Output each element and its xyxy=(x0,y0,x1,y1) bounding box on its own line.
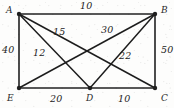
edge-weight-E-D: 20 xyxy=(50,94,63,104)
edge-weight-A-B: 10 xyxy=(80,1,93,11)
vertex-node-B xyxy=(153,12,157,16)
vertex-node-E xyxy=(17,86,21,90)
edge-weight-A-E: 40 xyxy=(2,45,15,55)
graph-canvas xyxy=(0,0,174,108)
edge-weight-A-D: 12 xyxy=(33,48,46,58)
vertex-label-D: D xyxy=(86,94,93,103)
vertex-label-B: B xyxy=(161,6,168,15)
edge-weight-E-B: 30 xyxy=(101,25,114,35)
edge-weight-D-B: 22 xyxy=(119,51,132,61)
vertex-label-C: C xyxy=(161,94,168,103)
vertex-node-A xyxy=(17,12,21,16)
vertex-node-C xyxy=(153,86,157,90)
edge-weight-B-C: 50 xyxy=(161,45,174,55)
weighted-graph-diagram: A B C D E 10 40 50 20 10 15 12 30 22 xyxy=(0,0,174,108)
vertex-label-E: E xyxy=(7,94,14,103)
edge-weight-A-C: 15 xyxy=(53,27,66,37)
vertex-node-D xyxy=(88,86,92,90)
vertex-label-A: A xyxy=(6,6,13,15)
edge-weight-D-C: 10 xyxy=(118,94,131,104)
